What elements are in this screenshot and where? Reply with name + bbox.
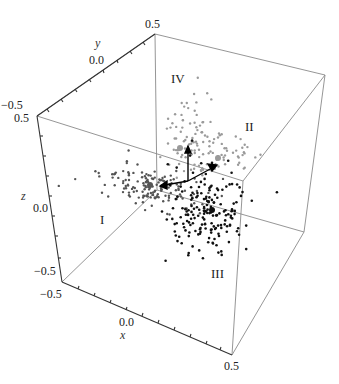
- z-tick-neg: −0.5: [34, 264, 56, 278]
- x-tick-pos: 0.5: [224, 359, 239, 373]
- region-label-IV: IV: [171, 71, 185, 86]
- z-axis-label: z: [20, 189, 26, 203]
- region-label-II: II: [245, 119, 254, 134]
- y-tick-pos: 0.5: [145, 17, 160, 31]
- x-tick-zero: 0.0: [119, 315, 134, 329]
- x-tick-neg: −0.5: [40, 287, 62, 301]
- y-tick-zero: 0.0: [89, 53, 104, 67]
- x-axis: [62, 282, 232, 355]
- region-label-I: I: [100, 212, 104, 227]
- z-axis: [37, 116, 62, 282]
- region-label-III: III: [211, 266, 224, 281]
- arrow-up-icon: [185, 146, 191, 153]
- x-axis-label: x: [119, 328, 126, 342]
- scatter-3d-plot: −0.5 0.0 0.5 y 0.5 0.0 −0.5 z −0.5 0.0 0…: [0, 0, 339, 384]
- z-tick-zero: 0.0: [33, 201, 48, 215]
- z-tick-pos: 0.5: [14, 111, 29, 125]
- y-axis-label: y: [94, 36, 101, 50]
- y-tick-neg: −0.5: [1, 98, 23, 112]
